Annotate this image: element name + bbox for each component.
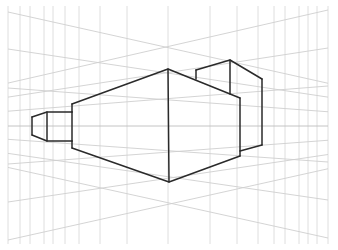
main-block-front-corner: [168, 69, 169, 182]
main-block: [72, 69, 240, 182]
top-right-box: [196, 60, 262, 151]
left-annex-bottom: [32, 135, 72, 141]
left-annex-top: [32, 112, 72, 117]
perspective-drawing: [0, 0, 338, 250]
left-annex: [32, 112, 72, 141]
